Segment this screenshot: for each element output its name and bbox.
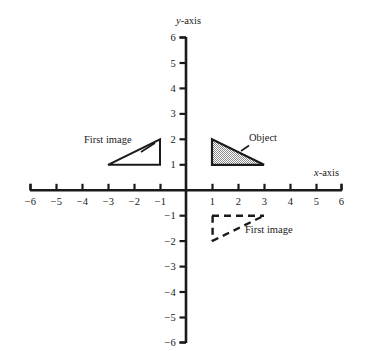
x-tick-label-neg-2: −2 (127, 197, 142, 208)
y-tick-label-3: 3 (168, 109, 176, 120)
x-axis-title: x-axis (314, 168, 339, 179)
first-image-lower-label: First image (245, 225, 293, 236)
x-tick-label-neg-1: −1 (153, 197, 168, 208)
y-tick-label-6: 6 (168, 33, 176, 44)
x-tick-label-neg-5: −5 (49, 197, 64, 208)
plot-canvas (0, 0, 365, 351)
y-tick-label-2: 2 (168, 135, 176, 146)
object-leader (241, 146, 249, 152)
object-label: Object (249, 133, 277, 144)
y-axis-title: y-axis (176, 16, 201, 27)
x-tick-label-6: 6 (337, 197, 346, 208)
x-tick-label-neg-4: −4 (75, 197, 90, 208)
y-tick-label-1: 1 (168, 160, 176, 171)
y-tick-label-neg-6: −6 (163, 338, 176, 349)
x-tick-label-neg-3: −3 (101, 197, 116, 208)
x-tick-label-2: 2 (234, 197, 243, 208)
leader-line-object (241, 146, 249, 152)
x-tick-label-1: 1 (208, 197, 217, 208)
y-tick-label-neg-3: −3 (163, 262, 176, 273)
y-tick-label-neg-1: −1 (163, 211, 176, 222)
y-tick-label-4: 4 (168, 84, 176, 95)
y-tick-label-neg-5: −5 (163, 313, 176, 324)
y-tick-label-neg-4: −4 (163, 288, 176, 299)
coordinate-plane-figure: 6 5 4 3 2 1 −1 −2 −3 −4 −5 −6 −6 −5 −4 −… (0, 0, 365, 351)
x-tick-label-neg-6: −6 (23, 197, 38, 208)
y-axis-title-suffix: -axis (181, 15, 201, 26)
x-tick-label-3: 3 (260, 197, 269, 208)
y-tick-label-neg-2: −2 (163, 237, 176, 248)
x-axis-title-suffix: -axis (319, 167, 339, 178)
x-tick-label-4: 4 (286, 197, 295, 208)
y-tick-label-5: 5 (168, 59, 176, 70)
first-image-upper-label: First image (84, 135, 132, 146)
x-tick-label-5: 5 (312, 197, 321, 208)
